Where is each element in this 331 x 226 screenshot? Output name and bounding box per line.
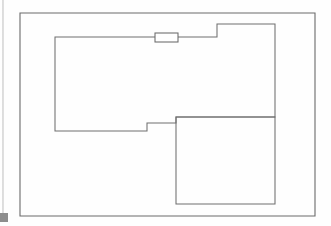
door-opening-symbol — [155, 33, 178, 42]
floor-plan-page — [0, 0, 331, 226]
floor-plan-drawing — [0, 0, 331, 226]
site-boundary-rectangle — [20, 13, 315, 216]
interior-room-rectangle — [176, 117, 275, 204]
